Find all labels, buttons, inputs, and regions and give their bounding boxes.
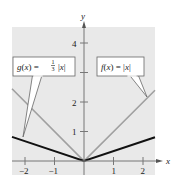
x-tick-label-2: 2: [141, 166, 146, 176]
callout-g-label: g(x) =: [17, 62, 39, 72]
callout-f-label: f(x) = |x|: [101, 62, 131, 72]
x-axis-arrow-icon: [156, 159, 163, 163]
y-tick-label-1: 1: [72, 127, 77, 137]
svg-text:|x|: |x|: [58, 62, 66, 72]
x-tick-label-neg1: −1: [49, 166, 59, 176]
y-axis-arrow-icon: [82, 21, 86, 28]
x-tick-label-1: 1: [112, 166, 117, 176]
svg-text:3: 3: [52, 66, 55, 72]
y-tick-label-2: 2: [72, 98, 77, 108]
x-axis-label: x: [165, 156, 170, 166]
svg-text:1: 1: [52, 59, 55, 65]
y-tick-label-4: 4: [72, 39, 77, 49]
y-axis-label: y: [80, 11, 85, 21]
x-tick-label-neg2: −2: [19, 166, 29, 176]
chart: y x 1 2 4 −2 −1 1 2 g(x) = 1 3 |x|: [0, 0, 174, 186]
